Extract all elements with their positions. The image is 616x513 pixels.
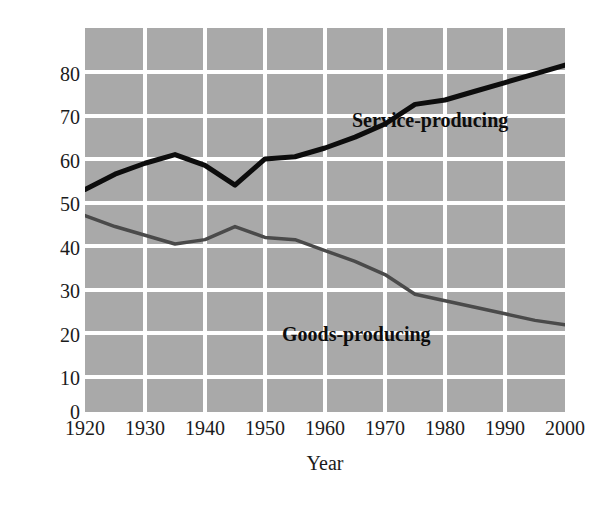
y-tick-30: 30 bbox=[36, 281, 80, 301]
x-tick-1970: 1970 bbox=[353, 418, 417, 438]
y-tick-60: 60 bbox=[36, 151, 80, 171]
y-tick-70: 70 bbox=[36, 107, 80, 127]
x-tick-2000: 2000 bbox=[533, 418, 597, 438]
y-tick-40: 40 bbox=[36, 238, 80, 258]
x-tick-1930: 1930 bbox=[113, 418, 177, 438]
x-tick-1940: 1940 bbox=[173, 418, 237, 438]
y-tick-20: 20 bbox=[36, 325, 80, 345]
chart-figure: 80 70 60 50 40 30 20 10 0 Percent bbox=[0, 0, 616, 513]
x-axis-tick-labels: 1920 1930 1940 1950 1960 1970 1980 1990 … bbox=[85, 418, 565, 446]
x-tick-1950: 1950 bbox=[233, 418, 297, 438]
x-tick-1990: 1990 bbox=[473, 418, 537, 438]
plot-area: Service-producing Goods-producing bbox=[85, 28, 565, 412]
x-tick-1980: 1980 bbox=[413, 418, 477, 438]
x-tick-1920: 1920 bbox=[53, 418, 117, 438]
series-label-goods-producing: Goods-producing bbox=[282, 324, 431, 344]
y-axis-title: Percent bbox=[12, 150, 40, 280]
series-lines bbox=[85, 28, 565, 412]
y-tick-10: 10 bbox=[36, 368, 80, 388]
y-tick-50: 50 bbox=[36, 194, 80, 214]
line-goods-producing bbox=[85, 216, 565, 325]
y-tick-80: 80 bbox=[36, 64, 80, 84]
series-label-service-producing: Service-producing bbox=[352, 110, 508, 130]
x-tick-1960: 1960 bbox=[293, 418, 357, 438]
x-axis-title: Year bbox=[85, 452, 565, 475]
